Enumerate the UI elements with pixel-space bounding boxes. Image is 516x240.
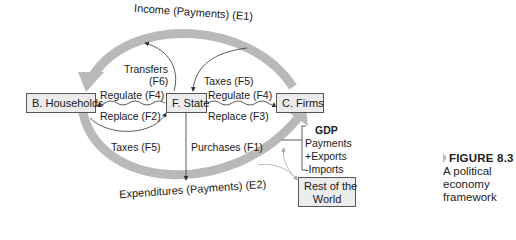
- figure-caption: FIGURE 8.3 A political economy framework: [443, 152, 514, 204]
- households-node: B. Households: [26, 93, 96, 113]
- rest-of-world-line1: Rest of the: [304, 180, 350, 193]
- replace-firms-label: Replace (F3): [208, 110, 269, 122]
- taxes-firms-label: Taxes (F5): [204, 75, 254, 87]
- figure-number: FIGURE 8.3: [449, 152, 514, 164]
- gdp-imports: -Imports: [305, 163, 352, 176]
- regulate-households-label: Regulate (F4): [100, 89, 164, 101]
- rest-of-world-line2: World: [304, 193, 350, 206]
- exports-arrow: [283, 148, 295, 178]
- regulate-firms-label: Regulate (F4): [208, 89, 272, 101]
- caption-line1: A political: [443, 165, 514, 178]
- transfers-label-line1: Transfers: [124, 63, 168, 75]
- caption-line2: economy: [443, 178, 514, 191]
- regulate-firms-wave: [208, 101, 274, 105]
- income-flow-arrow: [92, 33, 293, 87]
- caption-marker-icon: [443, 153, 447, 163]
- gdp-payments: Payments: [305, 137, 352, 150]
- purchases-label: Purchases (F1): [191, 141, 263, 153]
- gdp-exports: +Exports: [305, 150, 352, 163]
- taxes-households-label: Taxes (F5): [111, 141, 161, 153]
- regulate-households-wave: [100, 101, 165, 105]
- firms-node: C. Firms: [276, 93, 324, 113]
- gdp-title: GDP: [305, 124, 352, 137]
- caption-line3: framework: [443, 191, 514, 204]
- state-node: F. State: [166, 93, 207, 113]
- transfers-label-line2: (F6): [149, 75, 168, 87]
- gdp-block: GDP Payments +Exports -Imports: [305, 124, 352, 176]
- replace-households-label: Replace (F2): [100, 110, 161, 122]
- rest-of-world-node: Rest of the World: [298, 177, 356, 207]
